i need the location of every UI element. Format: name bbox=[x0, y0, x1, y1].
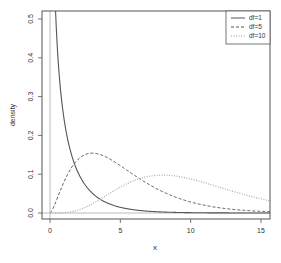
chart: 051015 0.00.10.20.30.40.5 x density df=1… bbox=[0, 0, 281, 263]
x-tick-label: 10 bbox=[187, 227, 195, 234]
curve-df-5 bbox=[50, 153, 270, 213]
x-axis-label: x bbox=[153, 243, 157, 252]
y-axis: 0.00.10.20.30.40.5 bbox=[27, 14, 42, 218]
legend-df5: df=5 bbox=[249, 23, 262, 30]
x-tick-label: 0 bbox=[48, 227, 52, 234]
legend-df10: df=10 bbox=[249, 32, 266, 39]
x-tick-label: 5 bbox=[118, 227, 122, 234]
legend: df=1 df=5 df=10 bbox=[226, 11, 270, 44]
y-axis-label: density bbox=[9, 103, 17, 126]
y-tick-label: 0.0 bbox=[27, 208, 34, 218]
x-tick-label: 15 bbox=[257, 227, 265, 234]
y-tick-label: 0.1 bbox=[27, 169, 34, 179]
legend-df1: df=1 bbox=[249, 14, 262, 21]
y-tick-label: 0.5 bbox=[27, 14, 34, 24]
y-tick-label: 0.4 bbox=[27, 53, 34, 63]
x-axis: 051015 bbox=[48, 219, 265, 234]
y-tick-label: 0.2 bbox=[27, 130, 34, 140]
y-tick-label: 0.3 bbox=[27, 92, 34, 102]
